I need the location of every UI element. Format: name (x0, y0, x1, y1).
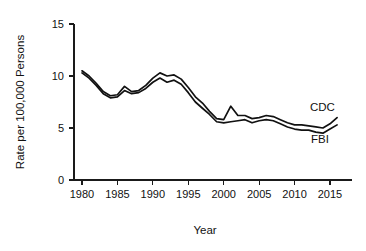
series-line-cdc (82, 71, 337, 128)
x-tick-label: 2005 (247, 188, 271, 200)
y-tick-label: 15 (52, 18, 64, 30)
x-tick-label: 1995 (176, 188, 200, 200)
x-tick-label: 1990 (141, 188, 165, 200)
series-label-cdc: CDC (310, 101, 335, 113)
homicide-rate-chart: 051015 19801985199019952000200520102015 … (0, 0, 366, 251)
y-tick-label: 5 (58, 122, 64, 134)
x-tick-label: 1985 (105, 188, 129, 200)
y-axis-group: 051015 (52, 18, 74, 186)
x-tick-label: 2010 (282, 188, 306, 200)
y-tick-label: 10 (52, 70, 64, 82)
x-tick-label: 2000 (211, 188, 235, 200)
x-tick-label: 1980 (70, 188, 94, 200)
series-label-fbi: FBI (311, 133, 329, 145)
data-series-group (82, 71, 337, 133)
chart-canvas: 051015 19801985199019952000200520102015 … (0, 0, 366, 251)
x-axis-ticks: 19801985199019952000200520102015 (70, 180, 342, 200)
x-tick-label: 2015 (318, 188, 342, 200)
x-axis-title: Year (193, 224, 216, 236)
y-tick-label: 0 (58, 174, 64, 186)
y-axis-ticks: 051015 (52, 18, 74, 186)
y-axis-title: Rate per 100,000 Persons (14, 35, 26, 170)
x-axis-group: 19801985199019952000200520102015 (70, 180, 352, 200)
